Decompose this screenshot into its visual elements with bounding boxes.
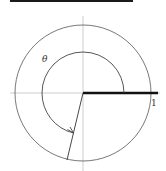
one-label: 1 xyxy=(151,98,157,108)
theta-label: θ xyxy=(42,54,48,64)
top-bar xyxy=(10,0,133,2)
terminal-ray xyxy=(67,93,83,160)
unit-circle-diagram: θ 1 xyxy=(0,0,166,171)
